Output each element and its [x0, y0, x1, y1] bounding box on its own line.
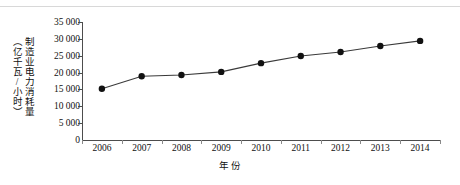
x-axis-tick-label: 2013: [371, 143, 390, 154]
data-series-layer: [82, 22, 440, 140]
x-axis-tick-label: 2007: [132, 143, 151, 154]
x-axis-title: 年 份: [0, 158, 460, 172]
y-axis-tick-label: 30 000: [54, 34, 80, 44]
x-axis-tick-label: 2011: [291, 143, 310, 154]
data-point: [337, 49, 343, 55]
data-point: [298, 53, 304, 59]
plot-area: [82, 22, 440, 140]
y-axis-tick: [78, 56, 82, 57]
x-axis-tick-label: 2012: [331, 143, 350, 154]
x-axis-tick-label: 2010: [252, 143, 271, 154]
data-point: [377, 43, 383, 49]
y-axis-tick-label: 35 000: [54, 17, 80, 27]
x-axis-line: [82, 140, 440, 141]
x-axis-tick-labels: 200620072008200920102011201220132014: [82, 143, 454, 159]
data-point: [258, 60, 264, 66]
series-markers: [99, 38, 424, 92]
data-point: [218, 69, 224, 75]
x-axis-tick-label: 2009: [212, 143, 231, 154]
x-axis-tick-label: 2008: [172, 143, 191, 154]
y-axis-tick: [78, 123, 82, 124]
y-axis-tick-label: 15 000: [54, 84, 80, 94]
y-axis-title-line1: 制造业电力消耗量: [23, 37, 35, 117]
y-axis-tick: [78, 106, 82, 107]
y-axis-tick-label: 20 000: [54, 68, 80, 78]
y-axis-tick: [78, 39, 82, 40]
data-point: [178, 72, 184, 78]
y-axis-title-line2: （亿千瓦/小时）: [11, 37, 23, 117]
y-axis-tick: [78, 22, 82, 23]
y-axis-tick: [78, 89, 82, 90]
y-axis-tick-label: 10 000: [54, 101, 80, 111]
x-axis-tick-label: 2014: [411, 143, 430, 154]
data-point: [99, 86, 105, 92]
y-axis-tick-label: 5 000: [59, 118, 80, 128]
x-axis-tick-label: 2006: [92, 143, 111, 154]
data-point: [138, 73, 144, 79]
data-point: [417, 38, 423, 44]
y-axis-tick: [78, 73, 82, 74]
x-axis-title-text: 年 份: [219, 161, 241, 171]
y-axis-tick-label: 0: [75, 135, 80, 145]
line-chart: （亿千瓦/小时） 制造业电力消耗量 05 00010 00015 00020 0…: [0, 0, 460, 185]
y-axis-tick-label: 25 000: [54, 51, 80, 61]
y-axis-title: （亿千瓦/小时） 制造业电力消耗量: [6, 18, 40, 136]
